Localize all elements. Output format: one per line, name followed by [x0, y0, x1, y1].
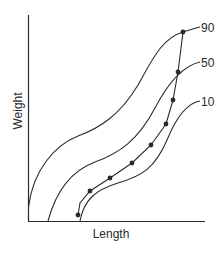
data-point [108, 176, 113, 181]
curve-50 [48, 62, 200, 221]
x-axis-label: Length [93, 227, 130, 241]
data-point [171, 98, 176, 103]
y-axis-label: Weight [11, 92, 25, 130]
data-point [130, 161, 135, 166]
data-point [149, 143, 154, 148]
data-point [181, 30, 186, 35]
data-point [76, 213, 81, 218]
curve-label-10: 10 [201, 95, 215, 109]
data-point [164, 122, 169, 127]
data-point [176, 70, 181, 75]
curve-label-50: 50 [201, 56, 215, 70]
curve-90 [29, 27, 201, 207]
curve-label-90: 90 [201, 21, 215, 35]
growth-chart: 90 50 10 Length Weight [0, 0, 224, 253]
data-point [88, 189, 93, 194]
